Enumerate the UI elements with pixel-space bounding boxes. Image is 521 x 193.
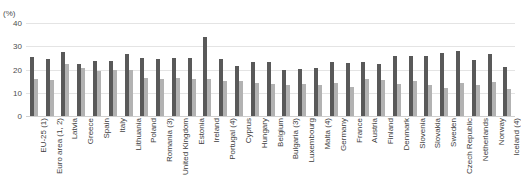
x-axis-label-cell: Poland [136, 118, 152, 193]
bar-group [231, 23, 247, 116]
x-axis-labels: EU-25 (1)Euro area (1, 2)LatviaGreeceSpa… [26, 118, 515, 193]
bar-group [184, 23, 200, 116]
x-axis-label-cell: Norway [484, 118, 500, 193]
bar-group [499, 23, 515, 116]
y-axis-tick-label: 30 [13, 42, 22, 51]
x-axis-label-cell: Malta (4) [310, 118, 326, 193]
y-axis-tick-label: 10 [13, 88, 22, 97]
x-axis-label-cell: Hungary [247, 118, 263, 193]
x-axis-label-cell: United Kingdom [168, 118, 184, 193]
bar-group [152, 23, 168, 116]
bar [97, 71, 101, 116]
bar [160, 79, 164, 116]
bar-group [168, 23, 184, 116]
x-axis-label: Iceland (4) [512, 118, 521, 156]
x-axis-label-cell: Iceland (4) [499, 118, 515, 193]
bar [397, 84, 401, 116]
bar [113, 70, 117, 116]
x-axis-label-cell: Latvia [58, 118, 74, 193]
x-axis-label-cell: EU-25 (1) [26, 118, 42, 193]
bar [223, 81, 227, 116]
bar [239, 81, 243, 116]
x-axis-label-cell: Denmark [389, 118, 405, 193]
x-axis-label-cell: Finland [373, 118, 389, 193]
bar [255, 83, 259, 116]
bar [334, 83, 338, 116]
bar-group [215, 23, 231, 116]
bar [507, 89, 511, 116]
gridline [26, 116, 515, 117]
bar-group [294, 23, 310, 116]
bar [50, 80, 54, 117]
y-axis-unit-label: (%) [3, 9, 15, 19]
x-axis-label-cell: Cyprus [231, 118, 247, 193]
y-axis-tick-label: 20 [13, 65, 22, 74]
bar [460, 83, 464, 116]
bar-group [452, 23, 468, 116]
x-axis-label-cell: Euro area (1, 2) [42, 118, 58, 193]
x-axis-label-cell: Netherlands [468, 118, 484, 193]
bar-group [468, 23, 484, 116]
x-axis-label-cell: Luxembourg [294, 118, 310, 193]
bar-group [42, 23, 58, 116]
bar [65, 64, 69, 116]
bar-group [136, 23, 152, 116]
x-axis-label-cell: Slovakia [421, 118, 437, 193]
bar-group [310, 23, 326, 116]
bar-group [247, 23, 263, 116]
bar-group [342, 23, 358, 116]
bar [350, 87, 354, 116]
y-axis-tick-label: 40 [13, 19, 22, 28]
bar [286, 85, 290, 116]
bar-group [26, 23, 42, 116]
x-axis-label-cell: Greece [73, 118, 89, 193]
bar [381, 80, 385, 116]
x-axis-label-cell: Estonia [184, 118, 200, 193]
bar-group [73, 23, 89, 116]
bar [302, 84, 306, 116]
bar-group [200, 23, 216, 116]
x-axis-label-cell: Bulgaria (3) [279, 118, 295, 193]
x-axis-label-cell: Austria [357, 118, 373, 193]
bar [34, 79, 38, 116]
x-axis-label-cell: Slovenia [405, 118, 421, 193]
bar-group [105, 23, 121, 116]
bar [129, 70, 133, 116]
bar-group [279, 23, 295, 116]
bar [365, 79, 369, 116]
x-axis-label-cell: France [342, 118, 358, 193]
bar [144, 78, 148, 116]
bar [413, 81, 417, 116]
bar-group [484, 23, 500, 116]
bar [428, 85, 432, 116]
plot-area: 010203040 [26, 23, 515, 116]
bar [476, 85, 480, 116]
bar-group [436, 23, 452, 116]
bar [492, 82, 496, 116]
bar [176, 78, 180, 116]
x-axis-label-cell: Belgium [263, 118, 279, 193]
bar-group [357, 23, 373, 116]
x-axis-label-cell: Ireland [200, 118, 216, 193]
bar [318, 85, 322, 116]
chart-title [0, 0, 518, 4]
bar [444, 88, 448, 116]
x-axis-label-cell: Germany [326, 118, 342, 193]
x-axis-label-cell: Lithuania [121, 118, 137, 193]
x-axis-label-cell: Portugal (4) [215, 118, 231, 193]
x-axis-label-cell: Spain [89, 118, 105, 193]
bar [81, 68, 85, 116]
bar-group [421, 23, 437, 116]
bar-group [89, 23, 105, 116]
bar-group [121, 23, 137, 116]
bar-groups [26, 23, 515, 116]
bar [271, 84, 275, 116]
y-axis-tick-label: 0 [18, 112, 22, 121]
x-axis-label-cell: Sweden [436, 118, 452, 193]
x-axis-label-cell: Romania (3) [152, 118, 168, 193]
bar [207, 79, 211, 116]
bar-group [405, 23, 421, 116]
bar-group [389, 23, 405, 116]
bar-group [58, 23, 74, 116]
